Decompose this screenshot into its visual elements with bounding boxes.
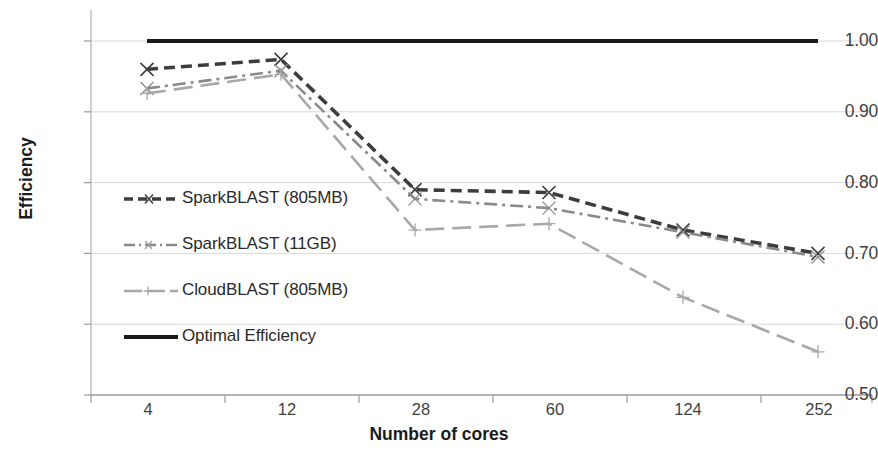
xtick-label-124: 124 xyxy=(653,400,723,419)
legend-swatch-cloudblast-805mb xyxy=(124,284,178,298)
efficiency-line-chart: 1.00 0.90 0.80 0.70 0.60 0.50 4 12 28 60… xyxy=(0,0,878,451)
legend-item-sparkblast-11gb: SparkBLAST (11GB) xyxy=(124,222,374,268)
ytick-label-0.60: 0.60 xyxy=(816,313,878,334)
ytick-label-1.00: 1.00 xyxy=(816,30,878,51)
y-tick-marks xyxy=(84,41,91,395)
legend-swatch-sparkblast-805mb xyxy=(124,192,178,206)
ytick-label-0.70: 0.70 xyxy=(816,243,878,264)
data-point-marker xyxy=(409,192,422,205)
xtick-label-28: 28 xyxy=(386,400,456,419)
ytick-label-0.90: 0.90 xyxy=(816,101,878,122)
legend-label-sparkblast-805mb: SparkBLAST (805MB) xyxy=(182,188,348,208)
legend-label-optimal-efficiency: Optimal Efficiency xyxy=(182,326,316,346)
x-axis-title: Number of cores xyxy=(0,424,878,445)
x-tick-marks xyxy=(91,395,872,403)
xtick-label-12: 12 xyxy=(252,400,322,419)
legend-swatch-optimal-efficiency xyxy=(124,330,178,344)
legend-item-optimal-efficiency: Optimal Efficiency xyxy=(124,314,374,360)
data-point-marker xyxy=(812,345,825,358)
data-point-marker xyxy=(543,217,556,230)
xtick-label-60: 60 xyxy=(520,400,590,419)
legend-swatch-sparkblast-11gb xyxy=(124,238,178,252)
legend-item-sparkblast-805mb: SparkBLAST (805MB) xyxy=(124,176,374,222)
legend-label-sparkblast-11gb: SparkBLAST (11GB) xyxy=(182,234,337,254)
xtick-label-4: 4 xyxy=(113,400,183,419)
xtick-label-252: 252 xyxy=(784,400,854,419)
chart-legend: SparkBLAST (805MB) SparkBLAST (11GB) Clo… xyxy=(124,176,374,360)
legend-label-cloudblast-805mb: CloudBLAST (805MB) xyxy=(182,280,348,300)
y-axis-title: Efficiency xyxy=(16,99,37,259)
data-point-marker xyxy=(677,291,690,304)
ytick-label-0.80: 0.80 xyxy=(816,172,878,193)
legend-item-cloudblast-805mb: CloudBLAST (805MB) xyxy=(124,268,374,314)
